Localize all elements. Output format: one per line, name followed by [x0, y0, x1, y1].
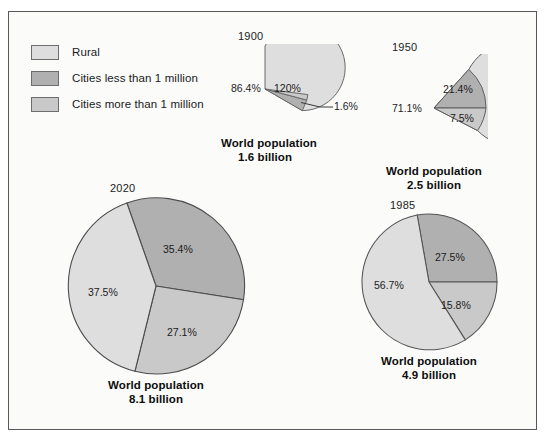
pie-caption-line1-1985: World population [359, 355, 499, 369]
pie-caption-1950: World population 2.5 billion [380, 165, 488, 192]
pie-caption-2020: World population 8.1 billion [66, 379, 246, 406]
pie-graphic-1900: 86.4% 120% 1.6% [221, 44, 361, 134]
pie-value-cities-less-1m-2020: 35.4% [163, 243, 193, 255]
legend-label-cities-less-1m: Cities less than 1 million [72, 72, 198, 84]
pie-chart-2020: 2020 35.4% 37.5% 27.1% World population … [66, 196, 246, 406]
pie-slice-cities-less-1m-1985 [417, 214, 497, 282]
pie-chart-1985: 1985 27.5% 56.7% 15.8% World population … [359, 212, 499, 382]
pie-graphic-2020: 35.4% 37.5% 27.1% [66, 196, 246, 376]
pie-year-1950: 1950 [392, 41, 417, 53]
pie-value-cities-more-1m-1985: 15.8% [441, 299, 471, 311]
pie-caption-line2-1900: 1.6 billion [221, 151, 309, 165]
pie-value-rural-1985: 56.7% [374, 279, 404, 291]
pie-caption-line2-2020: 8.1 billion [66, 393, 246, 407]
pie-caption-line1-2020: World population [66, 379, 246, 393]
legend-swatch-cities-less-1m [31, 71, 59, 86]
pie-caption-line2-1950: 2.5 billion [380, 179, 488, 193]
pie-value-rural-2020: 37.5% [88, 286, 118, 298]
pie-value-cities-less-1m-1950: 21.4% [443, 83, 473, 95]
legend-item-rural: Rural [31, 40, 204, 64]
legend-label-cities-more-1m: Cities more than 1 million [72, 98, 204, 110]
pie-caption-line2-1985: 4.9 billion [359, 369, 499, 383]
pie-caption-1985: World population 4.9 billion [359, 355, 499, 382]
pie-chart-1950: 1950 71.1% 21.4% 7.5% World population 2… [380, 54, 488, 192]
pie-value-cities-more-1m-1900: 1.6% [334, 100, 358, 112]
legend-swatch-rural [31, 45, 59, 60]
pie-value-cities-more-1m-1950: 7.5% [450, 112, 474, 124]
legend-label-rural: Rural [72, 46, 100, 58]
pie-caption-1900: World population 1.6 billion [221, 137, 309, 164]
pie-value-rural-1950: 71.1% [392, 102, 422, 114]
pie-graphic-1950: 71.1% 21.4% 7.5% [380, 54, 488, 162]
pie-chart-1900: 1900 86.4% 120% 1.6% World population 1.… [221, 44, 361, 164]
legend-swatch-cities-more-1m [31, 97, 59, 112]
pie-value-cities-less-1m-1900: 120% [274, 82, 301, 94]
legend-item-cities-more-1m: Cities more than 1 million [31, 92, 204, 116]
pie-graphic-1985: 27.5% 56.7% 15.8% [359, 212, 499, 352]
figure-frame: Rural Cities less than 1 million Cities … [8, 11, 537, 430]
pie-value-rural-1900: 86.4% [231, 82, 261, 94]
legend-item-cities-less-1m: Cities less than 1 million [31, 66, 204, 90]
pie-year-1985: 1985 [390, 199, 415, 211]
pie-caption-line1-1900: World population [221, 137, 309, 151]
legend: Rural Cities less than 1 million Cities … [31, 40, 204, 118]
pie-value-cities-less-1m-1985: 27.5% [435, 251, 465, 263]
pie-value-cities-more-1m-2020: 27.1% [167, 326, 197, 338]
pie-caption-line1-1950: World population [380, 165, 488, 179]
pie-year-2020: 2020 [110, 182, 135, 194]
pie-year-1900: 1900 [238, 30, 263, 42]
